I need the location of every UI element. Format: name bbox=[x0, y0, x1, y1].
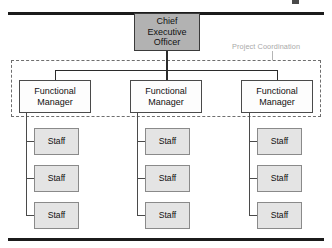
staff-box-1-1[interactable]: Staff bbox=[34, 128, 79, 155]
project-coordination-label: Project Coordination bbox=[232, 42, 300, 51]
staff-box-3-1[interactable]: Staff bbox=[257, 128, 302, 155]
ceo-line-3: Officer bbox=[147, 37, 186, 48]
org-chart-diagram: Project Coordination Chief Executive Off… bbox=[0, 0, 332, 248]
staff-box-2-3[interactable]: Staff bbox=[145, 202, 190, 229]
functional-manager-box-3[interactable]: Functional Manager bbox=[241, 80, 313, 113]
staff-stub-2-2 bbox=[137, 178, 145, 179]
staff-label-2-2: Staff bbox=[159, 173, 177, 183]
staff-stub-2-3 bbox=[137, 215, 145, 216]
staff-spine-2 bbox=[137, 113, 138, 216]
staff-label-2-1: Staff bbox=[159, 136, 177, 146]
clipped-heading-mark bbox=[292, 0, 299, 4]
project-coordination-leader-line bbox=[272, 51, 273, 60]
staff-label-1-3: Staff bbox=[48, 210, 66, 220]
staff-box-1-3[interactable]: Staff bbox=[34, 202, 79, 229]
manager-3-line-2: Manager bbox=[256, 97, 298, 108]
staff-spine-1 bbox=[26, 113, 27, 216]
manager-1-line-1: Functional bbox=[34, 86, 76, 97]
ceo-line-1: Chief bbox=[147, 16, 186, 27]
manager-2-line-1: Functional bbox=[145, 86, 187, 97]
staff-box-3-2[interactable]: Staff bbox=[257, 165, 302, 192]
staff-box-2-1[interactable]: Staff bbox=[145, 128, 190, 155]
ceo-line-2: Executive bbox=[147, 27, 186, 38]
staff-stub-1-1 bbox=[26, 141, 34, 142]
staff-stub-1-3 bbox=[26, 215, 34, 216]
staff-label-3-1: Staff bbox=[271, 136, 289, 146]
chief-executive-officer-box[interactable]: Chief Executive Officer bbox=[134, 13, 200, 51]
manager-3-stem-line bbox=[277, 70, 278, 80]
staff-label-1-2: Staff bbox=[48, 173, 66, 183]
staff-spine-3 bbox=[249, 113, 250, 216]
functional-manager-box-1[interactable]: Functional Manager bbox=[19, 80, 91, 113]
staff-stub-3-2 bbox=[249, 178, 257, 179]
ceo-stem-line bbox=[166, 51, 167, 71]
staff-box-1-2[interactable]: Staff bbox=[34, 165, 79, 192]
staff-stub-1-2 bbox=[26, 178, 34, 179]
staff-box-3-3[interactable]: Staff bbox=[257, 202, 302, 229]
staff-label-2-3: Staff bbox=[159, 210, 177, 220]
staff-stub-3-3 bbox=[249, 215, 257, 216]
functional-manager-box-2[interactable]: Functional Manager bbox=[130, 80, 202, 113]
manager-2-line-2: Manager bbox=[145, 97, 187, 108]
staff-label-3-3: Staff bbox=[271, 210, 289, 220]
staff-stub-3-1 bbox=[249, 141, 257, 142]
staff-stub-2-1 bbox=[137, 141, 145, 142]
manager-1-stem-line bbox=[55, 70, 56, 80]
manager-2-stem-line bbox=[166, 70, 167, 80]
staff-label-1-1: Staff bbox=[48, 136, 66, 146]
staff-label-3-2: Staff bbox=[271, 173, 289, 183]
manager-3-line-1: Functional bbox=[256, 86, 298, 97]
staff-box-2-2[interactable]: Staff bbox=[145, 165, 190, 192]
bottom-rule bbox=[8, 238, 324, 241]
manager-1-line-2: Manager bbox=[34, 97, 76, 108]
